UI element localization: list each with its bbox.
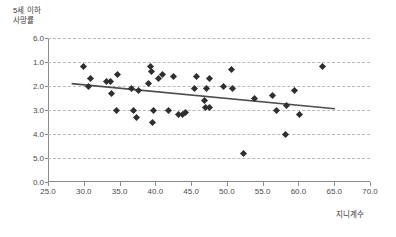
x-tick-label: 35.0 — [112, 187, 128, 196]
y-tick-label: 3.0 — [33, 106, 44, 115]
x-tick-label: 65.0 — [326, 187, 342, 196]
x-axis-title: 지니계수 — [336, 208, 364, 219]
y-tick-label: 5.0 — [33, 154, 44, 163]
x-tick-mark — [298, 182, 299, 186]
x-tick-mark — [227, 182, 228, 186]
x-tick-mark — [191, 182, 192, 186]
x-tick-mark — [263, 182, 264, 186]
x-tick-label: 55.0 — [255, 187, 271, 196]
x-tick-label: 50.0 — [219, 187, 235, 196]
x-tick-mark — [370, 182, 371, 186]
x-tick-mark — [84, 182, 85, 186]
x-tick-label: 70.0 — [362, 187, 378, 196]
x-tick-label: 25.0 — [40, 187, 56, 196]
y-axis-title: 5세 이하 사망률 — [13, 6, 41, 26]
x-tick-mark — [48, 182, 49, 186]
x-tick-mark — [155, 182, 156, 186]
x-tick-label: 40.0 — [148, 187, 164, 196]
x-tick-label: 45.0 — [183, 187, 199, 196]
x-tick-label: 60.0 — [291, 187, 307, 196]
x-tick-mark — [334, 182, 335, 186]
x-tick-mark — [120, 182, 121, 186]
y-tick-label: 6.0 — [33, 34, 44, 43]
y-tick-label: 4.0 — [33, 130, 44, 139]
scatter-chart-figure: 5세 이하 사망률 6.01.02.03.04.05.00.0 25.030.0… — [0, 0, 396, 237]
y-tick-label: 0.0 — [33, 178, 44, 187]
y-tick-label: 1.0 — [33, 58, 44, 67]
plot-area: 6.01.02.03.04.05.00.0 25.030.035.040.045… — [48, 38, 370, 182]
y-tick-label: 2.0 — [33, 82, 44, 91]
x-tick-label: 30.0 — [76, 187, 92, 196]
